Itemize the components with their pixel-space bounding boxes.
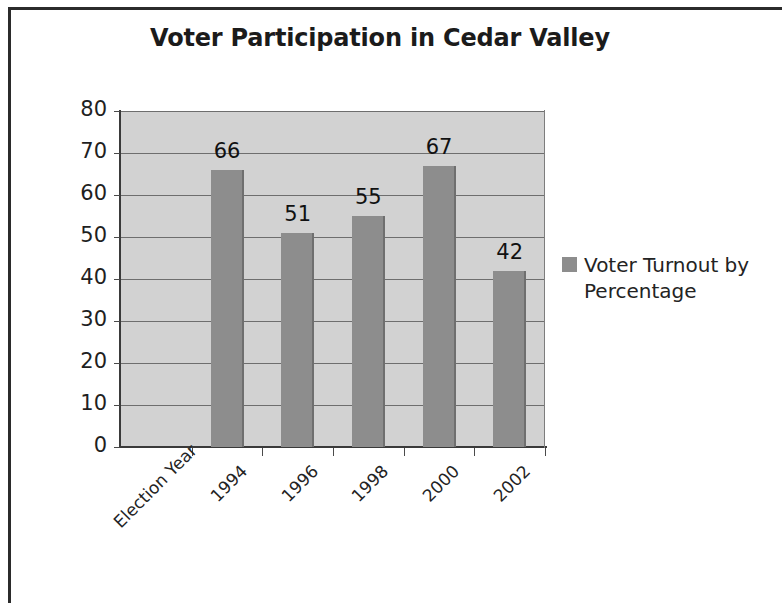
x-axis-category-label: 2000 <box>392 461 463 532</box>
legend-color-swatch <box>562 257 577 272</box>
gridline <box>121 405 545 406</box>
x-axis-category-label: Election Year <box>110 461 181 532</box>
bar <box>493 271 526 447</box>
x-axis-category-label: 1998 <box>322 461 393 532</box>
bar-value-label: 42 <box>480 240 540 264</box>
bar-value-label: 51 <box>268 202 328 226</box>
x-axis-tick <box>474 448 475 456</box>
plot-right-edge <box>544 110 545 448</box>
y-axis-labels-group: 01020304050607080 <box>47 0 107 603</box>
gridline <box>121 111 545 112</box>
y-axis-tick <box>114 153 120 154</box>
y-axis-label: 10 <box>47 391 107 415</box>
legend-entry-label: Voter Turnout by Percentage <box>584 252 782 304</box>
x-axis-tick <box>545 448 546 456</box>
y-axis-label: 20 <box>47 349 107 373</box>
chart-legend: Voter Turnout by Percentage <box>562 252 782 304</box>
y-axis-label: 80 <box>47 97 107 121</box>
bar <box>211 170 244 447</box>
x-axis-category-label: 1994 <box>180 461 251 532</box>
bar <box>281 233 314 447</box>
gridline <box>121 237 545 238</box>
gridline <box>121 153 545 154</box>
bar-value-label: 55 <box>338 185 398 209</box>
bar-value-label: 67 <box>409 135 469 159</box>
y-axis-tick <box>114 279 120 280</box>
y-axis-tick <box>114 447 120 448</box>
y-axis-tick <box>114 321 120 322</box>
y-axis-tick <box>114 405 120 406</box>
bar-value-label: 66 <box>197 139 257 163</box>
y-axis-label: 60 <box>47 181 107 205</box>
y-axis-tick <box>114 111 120 112</box>
y-axis-label: 70 <box>47 139 107 163</box>
chart-page: Voter Participation in Cedar Valley 0102… <box>0 0 782 603</box>
gridline <box>121 321 545 322</box>
x-axis-tick <box>262 448 263 456</box>
plot-area <box>121 111 545 447</box>
bar <box>423 166 456 447</box>
y-axis-label: 50 <box>47 223 107 247</box>
y-axis-label: 0 <box>47 433 107 457</box>
gridline <box>121 363 545 364</box>
x-axis-tick <box>404 448 405 456</box>
y-axis-tick <box>114 195 120 196</box>
x-axis-category-label: 1996 <box>251 461 322 532</box>
bar <box>352 216 385 447</box>
y-axis-label: 30 <box>47 307 107 331</box>
y-axis-tick <box>114 363 120 364</box>
x-axis-tick <box>333 448 334 456</box>
y-axis-tick <box>114 237 120 238</box>
gridline <box>121 279 545 280</box>
gridline <box>121 195 545 196</box>
x-axis-category-label: 2002 <box>463 461 534 532</box>
y-axis-label: 40 <box>47 265 107 289</box>
